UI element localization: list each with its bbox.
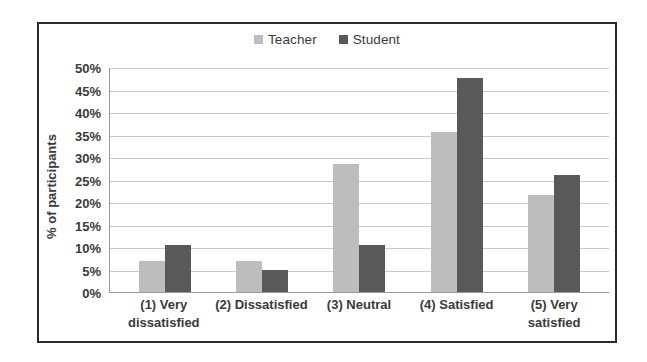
bar-group xyxy=(333,68,385,292)
plot-wrapper: 50%45%40%35%30%25%20%15%10%5%0% (1) Very… xyxy=(63,68,611,337)
bar-groups xyxy=(110,68,609,292)
bar-student xyxy=(554,175,580,292)
legend-label-student: Student xyxy=(353,32,400,47)
x-axis-labels: (1) Very dissatisfied(2) Dissatisfied(3)… xyxy=(109,296,609,331)
y-axis-title: % of participants xyxy=(41,70,61,302)
x-axis-label: (3) Neutral xyxy=(311,296,407,331)
x-axis-label: (2) Dissatisfied xyxy=(213,296,309,331)
legend-item-student: Student xyxy=(339,32,400,47)
y-axis-tick-label: 25% xyxy=(75,173,101,188)
y-axis-tick-label: 15% xyxy=(75,218,101,233)
y-axis-ticks: 50%45%40%35%30%25%20%15%10%5%0% xyxy=(63,68,105,293)
bar-student xyxy=(262,270,288,293)
bar-teacher xyxy=(431,132,457,292)
bar-teacher xyxy=(236,261,262,293)
y-axis-title-text: % of participants xyxy=(44,134,59,239)
x-axis-label: (4) Satisfied xyxy=(409,296,505,331)
bar-group xyxy=(431,68,483,292)
y-axis-tick-label: 20% xyxy=(75,196,101,211)
bar-group xyxy=(528,68,580,292)
bar-student xyxy=(457,78,483,292)
legend-swatch-student xyxy=(339,35,348,44)
y-axis-tick-label: 35% xyxy=(75,128,101,143)
bar-group xyxy=(139,68,191,292)
plot-area xyxy=(109,68,609,293)
chart-legend: Teacher Student xyxy=(39,26,615,52)
y-axis-tick-label: 30% xyxy=(75,151,101,166)
legend-item-teacher: Teacher xyxy=(254,32,317,47)
x-axis-label: (1) Very dissatisfied xyxy=(116,296,212,331)
y-axis-tick-label: 10% xyxy=(75,241,101,256)
chart-container: Teacher Student % of participants 50%45%… xyxy=(37,22,617,343)
bar-teacher xyxy=(528,195,554,292)
bar-student xyxy=(359,245,385,292)
legend-label-teacher: Teacher xyxy=(268,32,317,47)
legend-swatch-teacher xyxy=(254,35,263,44)
y-axis-tick-label: 5% xyxy=(82,263,101,278)
x-axis-label: (5) Very satisfied xyxy=(506,296,602,331)
bar-student xyxy=(165,245,191,292)
bar-teacher xyxy=(139,261,165,293)
bar-teacher xyxy=(333,164,359,292)
y-axis-tick-label: 40% xyxy=(75,106,101,121)
y-axis-tick-label: 50% xyxy=(75,61,101,76)
bar-group xyxy=(236,68,288,292)
y-axis-tick-label: 45% xyxy=(75,83,101,98)
y-axis-tick-label: 0% xyxy=(82,286,101,301)
